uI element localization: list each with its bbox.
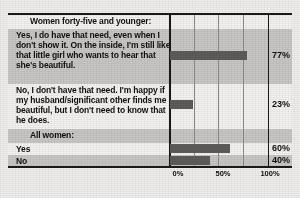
group-header-label-0: Women forty-five and younger: <box>30 17 190 27</box>
plot-area <box>169 15 269 166</box>
value-label-no-young: 23% <box>272 99 298 109</box>
gridline-75 <box>243 15 244 166</box>
row-label-no-young: No, I don't have that need. I'm happy if… <box>16 86 176 126</box>
bar-no-young <box>170 100 193 109</box>
tick-label-0: 0% <box>173 169 184 178</box>
x-axis-ticks: 0% 50% 100% <box>0 169 300 183</box>
value-label-no-all: 40% <box>272 155 298 165</box>
bar-yes-all <box>170 144 230 153</box>
survey-bar-chart: Women forty-five and younger: Yes, I do … <box>0 0 300 198</box>
row-label-yes-all: Yes <box>16 145 176 155</box>
bar-yes-young <box>170 51 247 60</box>
group-header-label-1: All women: <box>30 131 190 141</box>
tick-label-100: 100% <box>260 169 279 178</box>
value-label-yes-young: 77% <box>272 50 298 60</box>
tick-label-50: 50% <box>215 169 230 178</box>
row-label-yes-young: Yes, I do have that need, even when I do… <box>16 31 176 71</box>
axis-line-hundred <box>268 15 270 166</box>
value-label-yes-all: 60% <box>272 143 298 153</box>
bottom-rule <box>8 166 292 168</box>
bar-no-all <box>170 156 210 165</box>
